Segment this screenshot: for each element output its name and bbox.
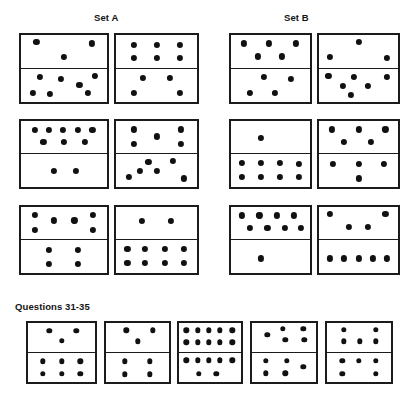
question-domino-q32 xyxy=(104,321,171,384)
domino-half-top xyxy=(231,121,310,154)
pip xyxy=(300,364,305,369)
pip xyxy=(291,212,297,218)
domino-b4 xyxy=(317,119,400,189)
pip xyxy=(258,255,264,261)
pip xyxy=(272,90,278,96)
pip xyxy=(382,211,388,217)
pip xyxy=(178,126,184,132)
pip xyxy=(355,255,361,261)
domino-puzzle-page: Set A Set B Questions 31-35 xyxy=(0,0,418,402)
pip xyxy=(355,161,361,167)
pip xyxy=(206,328,211,333)
pip xyxy=(181,175,187,181)
pip xyxy=(145,159,151,165)
pip xyxy=(131,126,137,132)
pip xyxy=(33,39,39,45)
pip xyxy=(177,42,183,48)
pip xyxy=(296,161,302,167)
pip xyxy=(137,168,143,174)
pip xyxy=(59,338,64,343)
domino-b5 xyxy=(229,205,312,275)
domino-half-bottom xyxy=(106,353,169,383)
pip xyxy=(341,139,347,145)
pip xyxy=(131,55,137,61)
pip xyxy=(184,340,189,345)
pip xyxy=(341,327,346,332)
domino-half-bottom xyxy=(21,154,107,187)
pip xyxy=(139,218,145,224)
pip xyxy=(78,359,83,364)
pip xyxy=(181,246,187,252)
domino-half-top xyxy=(21,207,107,240)
pip xyxy=(351,74,357,80)
pip xyxy=(277,160,283,166)
pip xyxy=(131,42,137,48)
pip xyxy=(142,260,148,266)
pip xyxy=(82,139,88,145)
pip xyxy=(239,174,245,180)
pip xyxy=(258,160,264,166)
pip xyxy=(131,141,137,147)
domino-half-bottom xyxy=(231,240,310,273)
domino-b2 xyxy=(317,33,400,104)
pip xyxy=(365,224,371,230)
pip xyxy=(340,358,345,363)
domino-half-bottom xyxy=(231,69,310,103)
pip xyxy=(195,357,200,362)
domino-half-top xyxy=(231,35,310,69)
domino-a3 xyxy=(19,119,109,189)
questions-heading: Questions 31-35 xyxy=(15,301,90,312)
pip xyxy=(184,328,189,333)
pip xyxy=(123,328,128,333)
pip xyxy=(124,260,130,266)
pip xyxy=(340,83,346,89)
pip xyxy=(340,371,345,376)
pip xyxy=(195,340,200,345)
domino-half-bottom xyxy=(116,154,197,187)
domino-half-bottom xyxy=(28,353,95,383)
pip xyxy=(47,91,53,97)
pip xyxy=(370,255,376,261)
pip xyxy=(355,126,361,132)
domino-a5 xyxy=(19,205,109,275)
pip xyxy=(368,139,374,145)
domino-a2 xyxy=(114,33,199,104)
domino-half-top xyxy=(28,323,95,353)
pip xyxy=(37,73,43,79)
pip xyxy=(61,54,67,60)
pip xyxy=(297,225,303,231)
pip xyxy=(230,340,235,345)
pip xyxy=(47,328,52,333)
pip xyxy=(264,225,270,231)
pip xyxy=(266,40,272,46)
domino-half-bottom xyxy=(231,154,310,187)
pip xyxy=(76,82,82,88)
pip xyxy=(346,224,352,230)
pip xyxy=(51,217,57,223)
domino-half-bottom xyxy=(116,240,197,273)
pip xyxy=(355,39,361,45)
pip xyxy=(89,127,95,133)
pip xyxy=(206,340,211,345)
pip xyxy=(280,326,285,331)
pip xyxy=(217,340,222,345)
pip xyxy=(327,211,333,217)
pip xyxy=(348,92,354,98)
domino-half-bottom xyxy=(319,240,398,273)
pip xyxy=(256,212,262,218)
pip xyxy=(283,337,288,342)
question-domino-q31 xyxy=(26,321,97,384)
pip xyxy=(178,141,184,147)
pip xyxy=(300,326,305,331)
pip xyxy=(122,359,127,364)
pip xyxy=(296,174,302,180)
domino-half-top xyxy=(327,323,391,353)
domino-half-top xyxy=(116,35,197,69)
pip xyxy=(195,328,200,333)
domino-half-top xyxy=(231,207,310,240)
pip xyxy=(247,90,253,96)
pip xyxy=(217,357,222,362)
pip xyxy=(40,139,46,145)
pip xyxy=(162,246,168,252)
domino-half-top xyxy=(106,323,169,353)
